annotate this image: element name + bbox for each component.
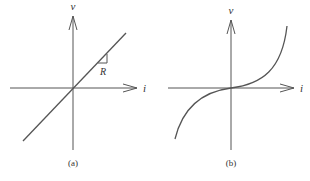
vi-characteristics-diagram: v i R (a) v i (b) [0,0,310,181]
panel-b: v i (b) [168,4,303,168]
panel-a-caption: (a) [68,158,78,168]
panel-b-x-label: i [300,82,303,94]
panel-a-y-label: v [71,0,76,12]
panel-a-x-label: i [143,82,146,94]
panel-b-y-label: v [229,4,234,16]
panel-a-linear-curve [23,33,126,141]
panel-a-slope-label: R [99,66,106,77]
panel-a: v i R (a) [10,0,146,168]
panel-b-caption: (b) [226,158,237,168]
